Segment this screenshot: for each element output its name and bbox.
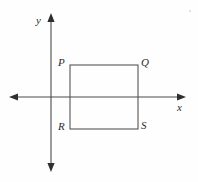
y-axis-label: y xyxy=(36,15,41,26)
y-axis-down-arrowhead xyxy=(47,163,54,172)
y-axis xyxy=(47,13,54,172)
y-axis-up-arrowhead xyxy=(47,13,54,22)
vertex-label-r: R xyxy=(58,121,65,132)
figure-canvas: P Q R S y x xyxy=(0,0,198,182)
coordinate-plane-diagram xyxy=(0,0,198,182)
x-axis-left-arrowhead xyxy=(9,93,18,100)
x-axis-right-arrowhead xyxy=(177,93,186,100)
vertex-label-q: Q xyxy=(141,57,149,68)
x-axis xyxy=(9,93,186,100)
vertex-label-s: S xyxy=(141,120,147,131)
scan-artifact-speck xyxy=(189,10,191,12)
vertex-label-p: P xyxy=(58,57,65,68)
x-axis-label: x xyxy=(177,102,182,113)
